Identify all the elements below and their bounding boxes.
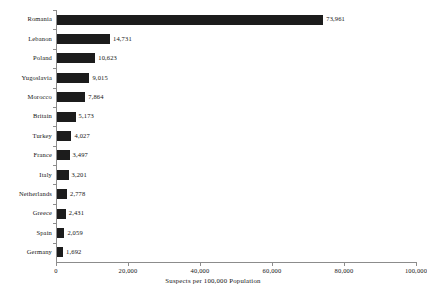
bar-row: Yugoslavia9,015 bbox=[0, 68, 426, 87]
bar bbox=[57, 112, 76, 122]
x-axis-tick-mark bbox=[200, 262, 201, 266]
bar bbox=[57, 34, 110, 44]
x-axis-tick-label: 100,000 bbox=[405, 268, 427, 275]
bar-row: Germany1,692 bbox=[0, 243, 426, 262]
category-label: Yugoslavia bbox=[0, 75, 52, 82]
bar bbox=[57, 247, 63, 257]
category-label: Romania bbox=[0, 16, 52, 23]
category-label: Morocco bbox=[0, 94, 52, 101]
bar-value-label: 7,864 bbox=[88, 94, 103, 101]
bar bbox=[57, 53, 95, 63]
bar-value-label: 73,961 bbox=[326, 16, 345, 23]
bar bbox=[57, 228, 64, 238]
x-axis-tick-label: 80,000 bbox=[335, 268, 354, 275]
bar-value-label: 2,778 bbox=[70, 191, 85, 198]
bar-wrapper: 10,623 bbox=[57, 49, 117, 68]
bar bbox=[57, 150, 70, 160]
bar-wrapper: 2,059 bbox=[57, 223, 83, 242]
category-label: Turkey bbox=[0, 133, 52, 140]
bar-row: Lebanon14,731 bbox=[0, 29, 426, 48]
x-axis-tick-label: 20,000 bbox=[119, 268, 138, 275]
bar-value-label: 2,431 bbox=[69, 210, 84, 217]
bar bbox=[57, 92, 85, 102]
category-label: Poland bbox=[0, 55, 52, 62]
bar-wrapper: 73,961 bbox=[57, 10, 345, 29]
bar-row: Greece2,431 bbox=[0, 204, 426, 223]
bar-wrapper: 7,864 bbox=[57, 88, 104, 107]
category-label: Greece bbox=[0, 210, 52, 217]
bar-value-label: 5,173 bbox=[79, 113, 94, 120]
bar bbox=[57, 189, 67, 199]
bar-rows: Romania73,961Lebanon14,731Poland10,623Yu… bbox=[0, 10, 426, 262]
bar bbox=[57, 131, 71, 141]
bar-value-label: 4,027 bbox=[74, 133, 89, 140]
x-axis-tick-mark bbox=[56, 262, 57, 266]
bar-wrapper: 3,201 bbox=[57, 165, 87, 184]
bar-row: Poland10,623 bbox=[0, 49, 426, 68]
x-axis-tick-mark bbox=[416, 262, 417, 266]
x-axis-tick-label: 0 bbox=[54, 268, 57, 275]
x-axis-title: Suspects per 100,000 Population bbox=[0, 278, 426, 285]
category-label: Italy bbox=[0, 172, 52, 179]
bar-wrapper: 14,731 bbox=[57, 29, 132, 48]
bar-value-label: 2,059 bbox=[67, 230, 82, 237]
bar-value-label: 14,731 bbox=[113, 36, 132, 43]
bar bbox=[57, 73, 89, 83]
bar-value-label: 3,497 bbox=[73, 152, 88, 159]
category-label: Germany bbox=[0, 249, 52, 256]
bar-wrapper: 1,692 bbox=[57, 243, 81, 262]
bar-wrapper: 4,027 bbox=[57, 126, 90, 145]
bar-row: Spain2,059 bbox=[0, 223, 426, 242]
bar-row: Britain5,173 bbox=[0, 107, 426, 126]
bar-row: Italy3,201 bbox=[0, 165, 426, 184]
bar-row: Morocco7,864 bbox=[0, 88, 426, 107]
bar bbox=[57, 170, 69, 180]
bar-value-label: 3,201 bbox=[72, 172, 87, 179]
bar bbox=[57, 15, 323, 25]
category-label: Netherlands bbox=[0, 191, 52, 198]
bar-row: France3,497 bbox=[0, 146, 426, 165]
bar-wrapper: 9,015 bbox=[57, 68, 108, 87]
bar-row: Turkey4,027 bbox=[0, 126, 426, 145]
bar-wrapper: 2,778 bbox=[57, 184, 85, 203]
bar-value-label: 1,692 bbox=[66, 249, 81, 256]
x-axis-tick-mark bbox=[272, 262, 273, 266]
bar-row: Romania73,961 bbox=[0, 10, 426, 29]
category-label: France bbox=[0, 152, 52, 159]
bar-value-label: 10,623 bbox=[98, 55, 117, 62]
category-label: Lebanon bbox=[0, 36, 52, 43]
bar-row: Netherlands2,778 bbox=[0, 184, 426, 203]
category-label: Britain bbox=[0, 113, 52, 120]
bar-wrapper: 3,497 bbox=[57, 146, 88, 165]
bar-wrapper: 5,173 bbox=[57, 107, 94, 126]
x-axis-tick-label: 40,000 bbox=[191, 268, 210, 275]
x-axis-tick-label: 60,000 bbox=[263, 268, 282, 275]
x-axis-tick-mark bbox=[344, 262, 345, 266]
bar-value-label: 9,015 bbox=[92, 75, 107, 82]
x-axis-tick-mark bbox=[128, 262, 129, 266]
bar-wrapper: 2,431 bbox=[57, 204, 84, 223]
bar bbox=[57, 209, 66, 219]
category-label: Spain bbox=[0, 230, 52, 237]
